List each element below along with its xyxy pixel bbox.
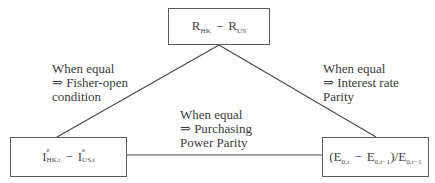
- node-top-term1: RHK: [192, 18, 211, 35]
- node-expected-inflation-differential: IeHK,t − IeUS,t: [10, 137, 127, 177]
- node-exchange-rate-change: (E0,t − E0,t−1 )/E0,t−1: [322, 137, 429, 177]
- node-right-term3: )/E0,t−1: [390, 149, 422, 166]
- edge-label-line: When equal: [323, 62, 399, 76]
- minus-operator: −: [216, 19, 223, 35]
- minus-operator: −: [65, 149, 72, 165]
- node-left-term2: IeUS,t: [78, 149, 95, 165]
- edge-label-interest-rate-parity: When equal ⇒ Interest rate Parity: [323, 62, 399, 104]
- edge-label-line: ⇒ Purchasing: [180, 122, 252, 136]
- edge-label-purchasing-power-parity: When equal ⇒ Purchasing Power Parity: [180, 108, 252, 150]
- edge-label-line: Power Parity: [180, 136, 252, 150]
- edge-label-fisher-open: When equal ⇒ Fisher-open condition: [52, 62, 128, 104]
- node-interest-differential: RHK − RUS: [168, 8, 270, 45]
- edge-label-line: ⇒ Interest rate: [323, 76, 399, 90]
- node-top-term2: RUS: [228, 18, 246, 35]
- edge-label-line: ⇒ Fisher-open: [52, 76, 128, 90]
- edge-label-line: When equal: [180, 108, 252, 122]
- node-right-term2: E0,t−1: [367, 149, 391, 166]
- node-left-term1: IeHK,t: [42, 149, 60, 165]
- minus-operator: −: [354, 149, 361, 165]
- edge-label-line: When equal: [52, 62, 128, 76]
- edge-label-line: condition: [52, 90, 128, 104]
- edge-label-line: Parity: [323, 90, 399, 104]
- node-right-term1: (E0,t: [329, 149, 349, 166]
